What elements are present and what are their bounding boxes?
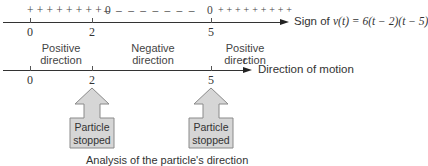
sign-axis-tick-label-2: 2 bbox=[82, 25, 102, 40]
interval-label-line2: direction bbox=[113, 54, 193, 66]
sign-axis-tick-2 bbox=[92, 18, 93, 23]
sign-axis-caption: Sign of v(t) = 6(t − 2)(t − 5) bbox=[294, 15, 428, 27]
motion-axis-line bbox=[3, 70, 245, 71]
motion-axis-tick-label-2: 2 bbox=[82, 73, 102, 88]
sign-axis-tick-0 bbox=[30, 18, 31, 23]
sign-plus-right: + + + + + + + + + bbox=[218, 4, 292, 15]
motion-axis-tick-label-5: 5 bbox=[201, 73, 221, 88]
sign-plus-left: + + + + + + + + 0 bbox=[27, 4, 111, 16]
stop-label-line2: stopped bbox=[69, 134, 115, 147]
sign-axis-tick-5 bbox=[211, 18, 212, 23]
motion-axis-tick-2 bbox=[92, 66, 93, 71]
stop-label-line1: Particle bbox=[69, 121, 115, 134]
sign-zero-right: 0 bbox=[207, 4, 213, 16]
figure-caption: Analysis of the particle's direction bbox=[86, 154, 248, 166]
motion-axis-tick-0 bbox=[30, 66, 31, 71]
stop-label-line2: stopped bbox=[188, 134, 234, 147]
stop-label: Particle stopped bbox=[69, 121, 115, 146]
interval-label-line1: Positive bbox=[21, 42, 101, 54]
motion-axis-tick-label-0: 0 bbox=[20, 73, 40, 88]
sign-minus-middle: – – – – – – – – bbox=[104, 4, 195, 16]
sign-axis-tick-label-5: 5 bbox=[201, 25, 221, 40]
time-variable-label: t bbox=[243, 54, 246, 66]
sign-axis-line bbox=[3, 22, 283, 23]
stop-label-line1: Particle bbox=[188, 121, 234, 134]
velocity-formula: v(t) = 6(t − 2)(t − 5) bbox=[333, 15, 428, 27]
motion-axis-tick-5 bbox=[211, 66, 212, 71]
particle-stopped-marker-t2: Particle stopped bbox=[69, 87, 115, 149]
sign-axis-tick-label-0: 0 bbox=[20, 25, 40, 40]
sign-caption-prefix: Sign of bbox=[294, 15, 333, 27]
interval-label-line2: direction bbox=[21, 54, 101, 66]
sign-axis-arrowhead-icon bbox=[280, 19, 289, 25]
particle-stopped-marker-t5: Particle stopped bbox=[188, 87, 234, 149]
interval-label-0-2: Positive direction bbox=[21, 42, 101, 66]
motion-axis-caption: Direction of motion bbox=[258, 63, 354, 75]
stop-label: Particle stopped bbox=[188, 121, 234, 146]
interval-label-line1: Negative bbox=[113, 42, 193, 54]
interval-label-line1: Positive bbox=[205, 42, 285, 54]
interval-label-2-5: Negative direction bbox=[113, 42, 193, 66]
motion-axis-arrowhead-icon bbox=[243, 67, 252, 73]
